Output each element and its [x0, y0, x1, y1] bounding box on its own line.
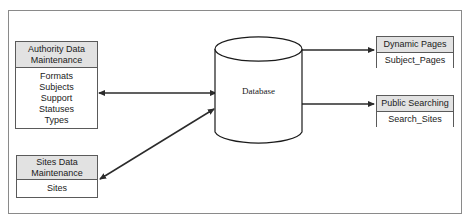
public-searching-body: Search_Sites — [377, 112, 453, 127]
authority-data-maintenance-box[interactable]: Authority Data Maintenance Formats Subje… — [15, 41, 98, 129]
database-label: Database — [214, 86, 303, 96]
sites-header: Sites Data Maintenance — [17, 156, 97, 180]
sites-header-line-2: Maintenance — [31, 168, 83, 178]
authority-item-types: Types — [44, 115, 68, 126]
dynamic-pages-box[interactable]: Dynamic Pages Subject_Pages — [376, 36, 454, 68]
public-searching-box[interactable]: Public Searching Search_Sites — [376, 95, 454, 127]
authority-header-line-1: Authority — [28, 44, 64, 54]
public-searching-header-label: Public Searching — [381, 98, 449, 109]
dynamic-pages-header: Dynamic Pages — [377, 37, 453, 53]
authority-item-subjects: Subjects — [39, 82, 74, 93]
diagram-canvas: Database Authority Data Maintenance Form… — [0, 0, 472, 223]
sites-header-line-1: Sites Data — [36, 157, 78, 167]
authority-body: Formats Subjects Support Statuses Types — [16, 68, 97, 128]
dynamic-pages-item-subject-pages: Subject_Pages — [385, 55, 446, 66]
dynamic-pages-body: Subject_Pages — [377, 53, 453, 68]
authority-item-statuses: Statuses — [39, 104, 74, 115]
sites-item-sites: Sites — [47, 183, 67, 194]
public-searching-item-search-sites: Search_Sites — [388, 114, 442, 125]
public-searching-header: Public Searching — [377, 96, 453, 112]
authority-item-support: Support — [41, 93, 73, 104]
sites-body: Sites — [17, 180, 97, 197]
authority-header: Authority Data Maintenance — [16, 42, 97, 68]
sites-data-maintenance-box[interactable]: Sites Data Maintenance Sites — [16, 155, 98, 198]
authority-item-formats: Formats — [40, 71, 73, 82]
dynamic-pages-header-label: Dynamic Pages — [383, 39, 446, 50]
